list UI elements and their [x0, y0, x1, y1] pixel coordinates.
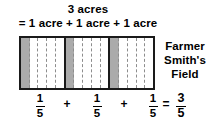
operator-equals: = — [160, 98, 172, 111]
fraction-numerator: 1 — [145, 92, 161, 105]
field-owner-line-2: Smith's — [160, 53, 210, 67]
operator-plus-2: + — [118, 98, 130, 111]
field-cell-shaded — [66, 38, 75, 88]
field-cell-empty — [38, 38, 47, 88]
heading-total-acres: 3 acres — [0, 3, 176, 16]
acre-section-3 — [110, 38, 153, 88]
field-cell-empty — [74, 38, 83, 88]
fraction-numerator: 1 — [89, 92, 105, 105]
field-owner-label: Farmer Smith's Field — [160, 39, 210, 81]
fraction-numerator: 1 — [32, 92, 48, 105]
fraction-denominator: 5 — [145, 107, 161, 120]
fraction-result: 3 5 — [173, 92, 189, 120]
field-cell-shaded — [110, 38, 119, 88]
acre-section-2 — [66, 38, 111, 88]
field-cell-empty — [119, 38, 128, 88]
field-cell-shaded — [21, 38, 30, 88]
field-owner-line-1: Farmer — [160, 39, 210, 53]
fraction-term-1: 1 5 — [32, 92, 48, 120]
field-cell-empty — [56, 38, 64, 88]
fraction-numerator: 3 — [173, 92, 189, 105]
field-cell-empty — [137, 38, 146, 88]
field-cell-empty — [92, 38, 101, 88]
diagram-canvas: 3 acres = 1 acre + 1 acre + 1 acre Farme… — [0, 0, 212, 125]
fraction-term-3: 1 5 — [145, 92, 161, 120]
fraction-denominator: 5 — [32, 107, 48, 120]
field-cell-empty — [128, 38, 137, 88]
field-cell-empty — [145, 38, 153, 88]
operator-plus-1: + — [61, 98, 73, 111]
heading-acre-sum: = 1 acre + 1 acre + 1 acre — [0, 17, 176, 30]
field-cell-empty — [83, 38, 92, 88]
acre-section-1 — [21, 38, 66, 88]
fraction-denominator: 5 — [89, 107, 105, 120]
fraction-denominator: 5 — [173, 107, 189, 120]
field-cell-empty — [101, 38, 109, 88]
farmer-field-rectangle — [19, 36, 155, 90]
fraction-term-2: 1 5 — [89, 92, 105, 120]
field-owner-line-3: Field — [160, 67, 210, 81]
field-cell-empty — [47, 38, 56, 88]
field-cell-empty — [30, 38, 39, 88]
fraction-equation: 1 5 + 1 5 + 1 5 = 3 5 — [19, 92, 175, 124]
